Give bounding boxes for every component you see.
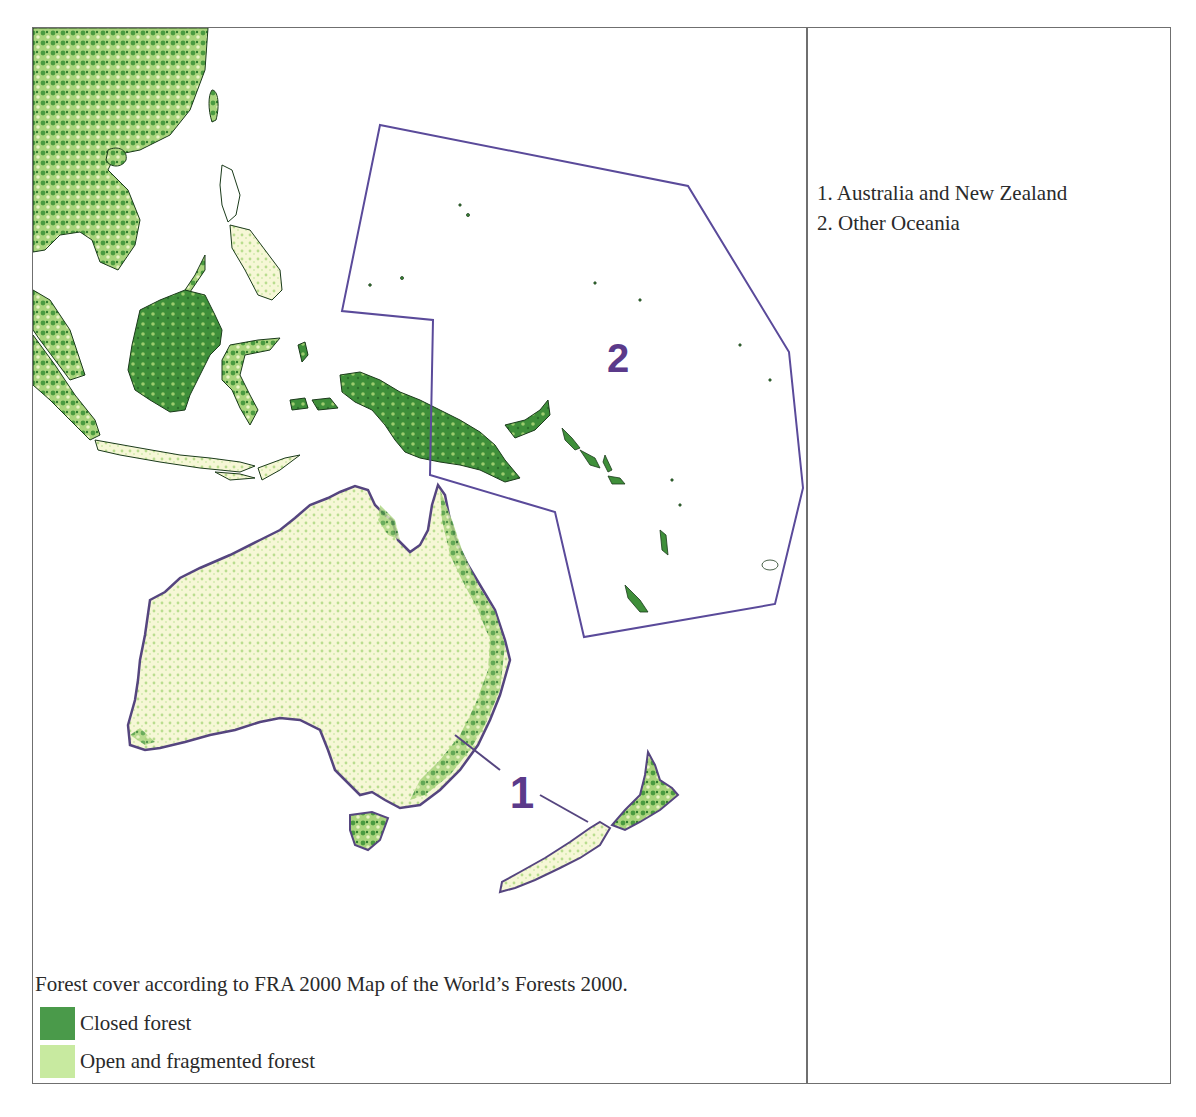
new-zealand-north <box>612 752 678 830</box>
legend-item-closed-forest: Closed forest <box>40 1007 191 1040</box>
panel-divider <box>806 27 808 1084</box>
open-forest-swatch <box>40 1045 75 1078</box>
region-1-label: 1 <box>510 768 534 817</box>
legend-item-open-forest: Open and fragmented forest <box>40 1045 315 1078</box>
forest-cover-map: 2 1 <box>33 28 806 1083</box>
region-list-item-2: 2. Other Oceania <box>817 208 1067 238</box>
borneo <box>128 290 222 412</box>
region-list-item-1: 1. Australia and New Zealand <box>817 178 1067 208</box>
legend-label: Closed forest <box>80 1011 191 1036</box>
closed-forest-swatch <box>40 1007 75 1040</box>
philippines <box>185 90 282 300</box>
region-1-leader-new-zealand <box>540 795 588 822</box>
sulawesi <box>222 338 280 425</box>
map-graphic: 2 1 <box>33 28 806 1083</box>
legend-label: Open and fragmented forest <box>80 1049 315 1074</box>
region-list: 1. Australia and New Zealand 2. Other Oc… <box>817 178 1067 238</box>
legend-caption: Forest cover according to FRA 2000 Map o… <box>35 972 628 997</box>
new-zealand-south <box>500 822 610 892</box>
region-2-label: 2 <box>607 336 629 380</box>
tasmania <box>350 812 388 850</box>
